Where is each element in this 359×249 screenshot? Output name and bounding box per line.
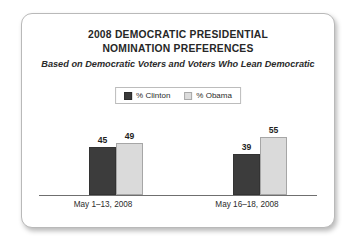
x-axis-line [39, 195, 317, 196]
bar-rect-clinton-0 [89, 147, 116, 195]
category-labels: May 1–13, 2008 May 16–18, 2008 [22, 200, 334, 214]
category-label-0: May 1–13, 2008 [74, 200, 133, 209]
chart-legend: % Clinton % Obama [115, 87, 241, 104]
chart-title: 2008 DEMOCRATIC PRESIDENTIAL NOMINATION … [22, 28, 334, 55]
legend-entry-clinton: % Clinton [124, 91, 170, 100]
bar-clinton-may-1-13: 45 [89, 135, 116, 195]
chart-title-line-1: 2008 DEMOCRATIC PRESIDENTIAL [22, 28, 334, 42]
obama-swatch-icon [184, 92, 192, 100]
plot-area: 45 49 39 55 [22, 114, 334, 196]
bar-rect-obama-0 [116, 143, 143, 195]
clinton-swatch-icon [124, 92, 132, 100]
bar-value-obama-1: 55 [269, 125, 279, 136]
bar-group-may-16-18: 39 55 [233, 125, 287, 195]
bar-value-clinton-1: 39 [242, 142, 252, 153]
bar-group-may-1-13: 45 49 [89, 131, 143, 195]
legend-entry-obama: % Obama [184, 91, 232, 100]
bar-value-clinton-0: 45 [98, 135, 108, 146]
bar-value-obama-0: 49 [125, 131, 135, 142]
chart-card: 2008 DEMOCRATIC PRESIDENTIAL NOMINATION … [21, 13, 335, 228]
legend-label-obama: % Obama [196, 91, 232, 100]
legend-label-clinton: % Clinton [136, 91, 170, 100]
bar-rect-clinton-1 [233, 154, 260, 195]
chart-title-line-2: NOMINATION PREFERENCES [22, 42, 334, 56]
bar-obama-may-16-18: 55 [260, 125, 287, 195]
chart-subtitle: Based on Democratic Voters and Voters Wh… [22, 59, 334, 69]
bar-rect-obama-1 [260, 137, 287, 195]
category-label-1: May 16–18, 2008 [215, 200, 278, 209]
bar-obama-may-1-13: 49 [116, 131, 143, 195]
bar-clinton-may-16-18: 39 [233, 142, 260, 195]
